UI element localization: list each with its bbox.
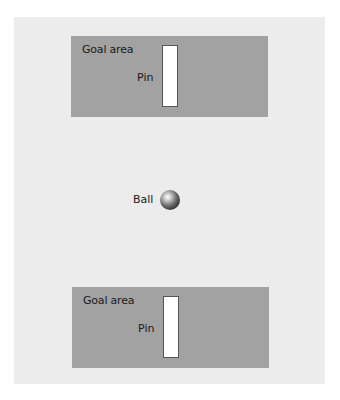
goal-area-top: Goal area Pin bbox=[71, 36, 268, 117]
ball-icon bbox=[160, 190, 180, 210]
pin bbox=[162, 45, 178, 107]
pin bbox=[163, 296, 179, 358]
pin-label: Pin bbox=[137, 71, 153, 84]
goal-area-label: Goal area bbox=[83, 294, 134, 307]
goal-area-bottom: Goal area Pin bbox=[72, 287, 269, 368]
goal-area-label: Goal area bbox=[82, 43, 133, 56]
pin-label: Pin bbox=[138, 322, 154, 335]
ball-label: Ball bbox=[133, 193, 153, 206]
